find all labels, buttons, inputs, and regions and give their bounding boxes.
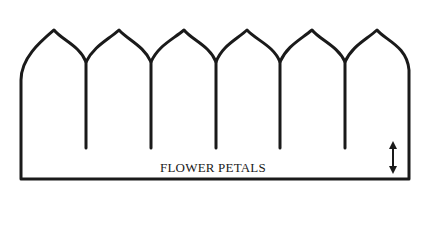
diagram-label: FLOWER PETALS xyxy=(160,160,266,175)
double-arrow-icon xyxy=(389,141,397,174)
flower-petals-template: FLOWER PETALS xyxy=(0,0,432,233)
